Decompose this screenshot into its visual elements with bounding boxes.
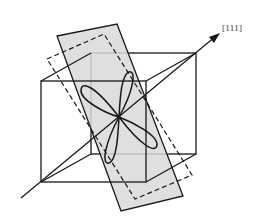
axis-arrowhead-icon bbox=[209, 33, 220, 43]
axis-label: [111] bbox=[222, 23, 242, 33]
cube-edge bbox=[41, 154, 91, 182]
cube-edge bbox=[146, 53, 196, 81]
crystal-diagram bbox=[0, 0, 262, 223]
origin-point bbox=[117, 115, 120, 118]
